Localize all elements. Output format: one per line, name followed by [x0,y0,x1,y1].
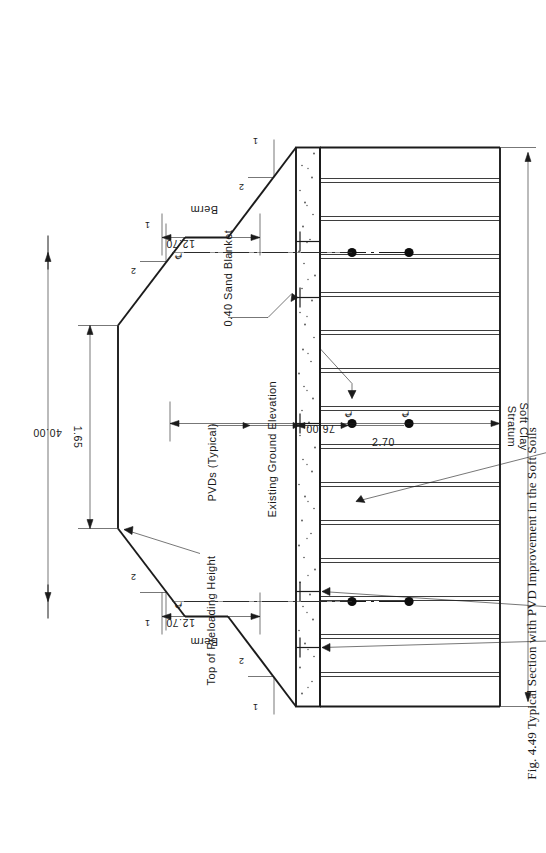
slope-run-upper-right: 2 [131,265,136,275]
label-pvds-typical: PVDs (Typical) [206,423,218,501]
slope-run-lower-right: 2 [239,181,244,191]
dim-label-total-width: 40.00 [33,426,62,438]
slope-rise-upper-right: 1 [145,219,150,229]
slope-run-upper-left: 2 [131,571,136,581]
dim-crest-width [78,325,118,528]
dim-label-embankment-thickness: 2.70 [372,435,395,447]
figure-page: 1.65 12.70 12.70 40.00 2.70 76.00 Top of… [0,0,546,853]
piezometer-bulbs [347,247,413,605]
label-top-of-preloading-height: Top of Preloading Height [205,555,217,685]
drawing-sheet: 1.65 12.70 12.70 40.00 2.70 76.00 Top of… [0,0,546,853]
figure-caption: Fig. 4.49 Typical Section with PVD Impro… [524,427,540,780]
dim-label-berm-height-right: 12.70 [166,237,195,249]
label-soft-clay-line2: Stratum [506,371,518,481]
centerline-symbol-left: ℄ [174,601,184,607]
dim-label-crest-width: 1.65 [72,425,84,448]
centerline-symbol-right: ℄ [174,252,184,258]
label-sand-blanket: 0.40 Sand Blanket [222,229,234,326]
slope-rise-upper-left: 1 [145,617,150,627]
label-berm-left: Berm [190,635,218,647]
label-existing-ground-elevation: Existing Ground Elevation [266,380,278,517]
centerline-symbol-mid-lower: ℄ [401,410,411,416]
slope-run-lower-left: 2 [239,655,244,665]
slope-rise-lower-right: 1 [253,135,258,145]
dim-label-berm-height-left: 12.70 [166,616,195,628]
centerline-symbol-mid-upper: ℄ [344,410,354,416]
label-berm-right: Berm [190,203,218,215]
slope-rise-lower-left: 1 [253,701,258,711]
dim-label-clay-depth: 76.00 [306,422,335,434]
leader-lines [124,293,546,651]
dim-clay-depth [170,401,500,441]
